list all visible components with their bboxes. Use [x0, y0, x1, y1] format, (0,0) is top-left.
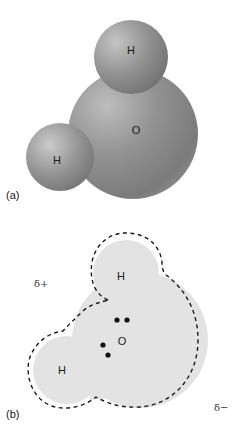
panel-a: H O H (a) [6, 20, 198, 201]
panel-b: H O H δ+ δ− (b) [6, 233, 228, 420]
partial-positive-label: δ+ [34, 278, 48, 289]
atom-label-h-left-b: H [58, 364, 66, 376]
electron-cloud [33, 240, 208, 408]
atom-label-h-top: H [127, 44, 135, 56]
atom-label-o: O [132, 124, 141, 136]
atom-label-h-left: H [53, 154, 61, 166]
panel-a-label: (a) [6, 189, 19, 201]
partial-negative-label: δ− [214, 402, 228, 413]
panel-b-label: (b) [6, 408, 19, 420]
water-molecule-figure: H O H (a) H O H δ+ δ− (b) [0, 0, 241, 426]
atom-label-h-top-b: H [117, 270, 125, 282]
hydrogen-sphere-top [94, 20, 168, 94]
atom-label-o-b: O [118, 335, 127, 347]
